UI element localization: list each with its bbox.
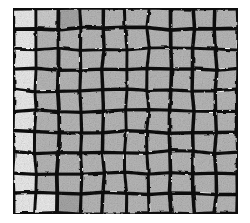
grid-cell (127, 90, 148, 108)
grid-cell (148, 133, 169, 152)
grid-cell (37, 30, 57, 48)
grid-cell (82, 134, 101, 151)
grid-cell (15, 194, 35, 213)
grid-cell (217, 70, 237, 90)
grid-cell (148, 111, 168, 132)
grid-cell (171, 91, 193, 110)
grid-cell (14, 111, 35, 130)
grid-cell (171, 152, 191, 173)
grid-cell (194, 195, 215, 213)
grid-border-right (237, 8, 238, 214)
grid-cell (82, 29, 103, 49)
grid-cell (82, 175, 103, 193)
grid-cell (14, 70, 34, 91)
grid-border-left (13, 9, 14, 214)
grid-cell (14, 175, 35, 192)
grid-cell (171, 194, 193, 213)
grid-cell (58, 154, 80, 173)
grid-cell (128, 49, 148, 68)
grid-cell (195, 9, 214, 27)
grid-cell (126, 9, 148, 26)
grid-cell (194, 134, 215, 152)
grid-cell (14, 51, 34, 68)
grid-cell (36, 70, 57, 91)
grid-cell (126, 132, 146, 152)
grid-cell (103, 194, 125, 214)
grid-cell (81, 9, 102, 27)
grid-cell (104, 111, 125, 131)
grid-cell (128, 70, 145, 89)
grid-cell (216, 134, 237, 153)
grid-cell (82, 194, 102, 214)
grid-line-vertical (169, 8, 171, 213)
grid-cell (172, 49, 191, 68)
grid-cell (105, 29, 126, 49)
grid-cell (59, 71, 79, 90)
grid-cell (15, 30, 35, 48)
grid-cell (217, 90, 237, 110)
grid-cell (126, 154, 147, 172)
grid-cell (60, 134, 80, 151)
grid-cell (82, 112, 102, 131)
grid-cell (150, 194, 170, 212)
grid-cell (126, 29, 147, 49)
grid-cell (81, 71, 101, 90)
grid-cell (217, 175, 236, 193)
grid-cell (36, 194, 56, 213)
grid-mesh-figure (13, 8, 238, 214)
grid-cell (81, 91, 102, 111)
grid-line-vertical (192, 9, 195, 214)
grid-border-bottom (13, 213, 237, 214)
grid-cell (148, 152, 169, 173)
grid-cell (103, 71, 125, 89)
grid-cell (105, 9, 124, 27)
grid-cell (14, 132, 33, 152)
grid-cell (148, 70, 170, 89)
grid-cell (58, 195, 79, 214)
grid-cell (172, 10, 193, 29)
grid-cell (37, 9, 57, 28)
grid-line-vertical (124, 8, 127, 214)
grid-cell (172, 30, 193, 47)
grid-cell (36, 154, 57, 173)
grid-cell (14, 153, 35, 173)
grid-cell (127, 111, 148, 130)
grid-cell (104, 90, 125, 109)
grid-cell (215, 196, 236, 213)
image-canvas: Hand-drawn square grid mesh A ten by ten… (0, 0, 250, 223)
grid-mesh-svg (13, 8, 238, 214)
grid-cell (82, 154, 103, 173)
grid-cell (150, 174, 169, 193)
grid-cell (82, 51, 103, 69)
grid-cell (194, 30, 214, 47)
grid-cell (194, 175, 215, 193)
grid-cell (60, 113, 80, 131)
grid-cell (217, 50, 237, 68)
grid-cell (60, 9, 80, 28)
grid-cell (103, 51, 125, 68)
grid-cell (36, 93, 57, 111)
grid-cell (194, 113, 215, 132)
grid-cell (148, 91, 169, 108)
grid-cell (36, 111, 58, 131)
grid-cell (14, 9, 34, 27)
grid-cell (104, 132, 125, 151)
grid-border-top (13, 8, 238, 9)
grid-cell (37, 176, 56, 192)
grid-cell (59, 92, 79, 111)
grid-cell (148, 9, 169, 29)
grid-cell (148, 49, 170, 68)
grid-cell (14, 91, 34, 111)
grid-cell (36, 133, 58, 152)
grid-line-vertical (102, 8, 105, 214)
grid-cell (128, 195, 148, 213)
grid-cell (60, 50, 80, 69)
grid-cell (104, 154, 123, 172)
grid-cell (217, 113, 237, 131)
grid-line-vertical (80, 8, 82, 214)
grid-cell (194, 153, 215, 173)
grid-cell (60, 29, 80, 49)
grid-cell (216, 30, 238, 49)
grid-cell (171, 134, 192, 150)
grid-cell (126, 174, 147, 194)
